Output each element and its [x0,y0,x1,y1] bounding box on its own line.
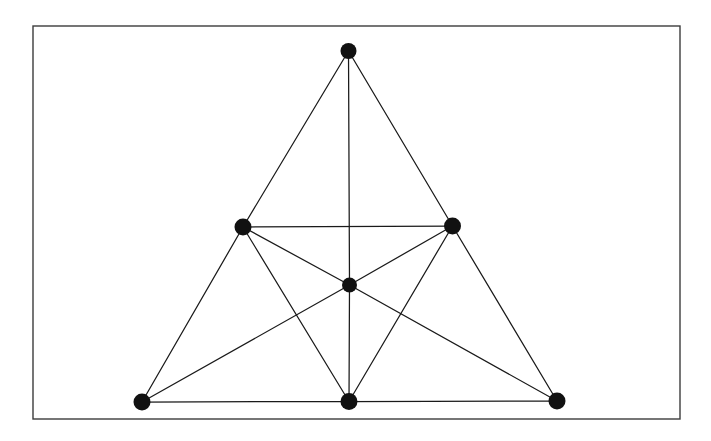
graph-node-bottom-middle[interactable] [341,393,358,410]
graph-edge-apex-to-mid-left [243,51,349,227]
graph-edge-center-to-bottom-middle [349,285,350,402]
graph-edge-mid-right-to-bottom-right [453,226,558,401]
graph-edge-apex-to-center [349,51,350,285]
graph-edge-mid-left-to-center [243,227,350,285]
graph-edge-bottom-left-to-bottom-middle [142,402,349,403]
graph-node-mid-right[interactable] [444,218,461,235]
graph-edge-mid-left-to-bottom-middle [243,227,349,402]
graph-edge-bottom-middle-to-bottom-right [349,401,557,402]
graph-node-center[interactable] [342,278,357,293]
graph-edge-mid-right-to-center [350,226,453,285]
graph-edge-apex-to-mid-right [349,51,453,226]
graph-node-apex[interactable] [341,43,357,59]
graph-edge-center-to-bottom-right [350,285,558,401]
graph-node-bottom-left[interactable] [134,394,151,411]
graph-edge-mid-left-to-bottom-left [142,227,243,402]
graph-node-bottom-right[interactable] [549,393,566,410]
graph-node-mid-left[interactable] [235,219,252,236]
figure-border [33,26,680,419]
graph-edge-mid-left-to-mid-right [243,226,453,227]
figure-root [0,0,711,441]
edge-layer [142,51,557,402]
graph-canvas [0,0,711,441]
graph-edge-center-to-bottom-left [142,285,350,402]
